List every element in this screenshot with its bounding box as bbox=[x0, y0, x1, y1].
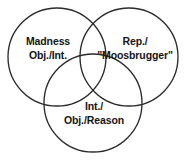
venn-circles-group bbox=[0, 0, 187, 165]
venn-label-representation-line1: Rep./ bbox=[92, 35, 178, 49]
venn-label-reason-line1: Int./ bbox=[50, 100, 138, 114]
venn-label-madness-line1: Madness bbox=[8, 35, 88, 49]
venn-diagram: Madness Obj./Int. Rep./ "Moosbrugger" In… bbox=[0, 0, 187, 165]
venn-label-representation-line2: "Moosbrugger" bbox=[92, 49, 178, 63]
venn-label-reason-line2: Obj./Reason bbox=[50, 114, 138, 128]
venn-label-representation: Rep./ "Moosbrugger" bbox=[92, 35, 178, 62]
venn-label-reason: Int./ Obj./Reason bbox=[50, 100, 138, 127]
venn-label-madness-line2: Obj./Int. bbox=[8, 49, 88, 63]
venn-label-madness: Madness Obj./Int. bbox=[8, 35, 88, 62]
